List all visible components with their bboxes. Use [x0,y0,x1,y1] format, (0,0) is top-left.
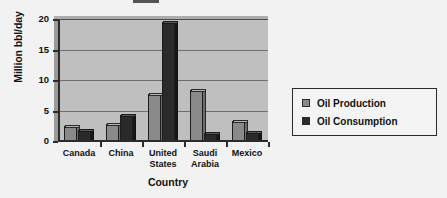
bar-top-face [247,131,262,134]
bar-front-face [64,126,77,142]
legend-swatch-production [302,99,310,107]
chart-figure: Million bbl/day 05101520 CanadaChinaUnit… [0,0,447,198]
clipped-title-remnant [133,0,159,3]
bar-production[interactable] [190,90,203,142]
bar-production[interactable] [106,124,119,142]
legend-item[interactable]: Oil Consumption [302,112,436,130]
y-tick-mark [53,19,58,21]
bar-production[interactable] [232,121,245,142]
bar-top-face [205,132,220,135]
y-axis-title: Million bbl/day [12,0,26,102]
bar-top-face [191,89,206,92]
bar-production[interactable] [64,126,77,142]
bar-consumption[interactable] [120,115,133,142]
plot-area [58,20,268,142]
y-tick-mark [53,111,58,113]
bar-side-face [133,115,136,142]
bar-top-face [233,120,248,123]
bar-front-face [232,121,245,142]
bar-top-face [163,21,178,24]
x-axis-title: Country [108,176,228,188]
legend-swatch-consumption [302,117,310,125]
bar-top-face [65,125,80,128]
y-tick-label: 15 [27,45,49,55]
bar-front-face [106,124,119,142]
bar-top-face [121,114,136,117]
x-tick-mark [100,142,102,147]
x-axis-labels: CanadaChinaUnited StatesSaudi ArabiaMexi… [58,148,268,174]
y-tick-label: 0 [27,136,49,146]
y-tick-mark [53,50,58,52]
y-tick-mark [53,80,58,82]
x-axis-ticks [58,142,268,147]
x-tick-mark [268,142,270,147]
x-category-label: Mexico [220,148,274,159]
x-tick-mark [184,142,186,147]
gridline [58,19,268,20]
y-tick-label: 10 [27,75,49,85]
x-tick-mark [226,142,228,147]
bar-production[interactable] [148,94,161,142]
legend: Oil Production Oil Consumption [292,88,437,136]
y-tick-label: 20 [27,14,49,24]
bar-top-face [79,129,94,132]
bar-side-face [175,22,178,142]
y-tick-label: 5 [27,106,49,116]
bar-consumption[interactable] [162,22,175,142]
legend-label-consumption: Oil Consumption [317,116,398,127]
bar-front-face [148,94,161,142]
bar-front-face [190,90,203,142]
bar-front-face [120,115,133,142]
x-tick-mark [142,142,144,147]
bar-consumption[interactable] [246,132,259,142]
bar-front-face [162,22,175,142]
legend-item[interactable]: Oil Production [302,94,436,112]
bar-consumption[interactable] [78,130,91,142]
bar-consumption[interactable] [204,133,217,142]
legend-label-production: Oil Production [317,98,386,109]
